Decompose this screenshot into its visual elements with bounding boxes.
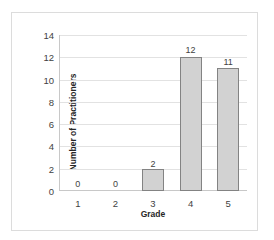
- bar-value-3: 2: [150, 159, 155, 169]
- ytick-label-14: 14: [43, 30, 54, 41]
- bar-5[interactable]: [217, 68, 239, 191]
- bar-3[interactable]: [142, 169, 164, 191]
- xtick-label-2: 2: [113, 198, 118, 209]
- ytick-label-12: 12: [43, 52, 54, 63]
- xtick-label-3: 3: [150, 198, 155, 209]
- xtick-label-5: 5: [226, 198, 231, 209]
- bar-value-4: 12: [186, 45, 196, 55]
- bar-group-5: 11 5: [209, 35, 247, 191]
- bar-value-5: 11: [224, 57, 233, 67]
- xtick-label-1: 1: [75, 198, 80, 209]
- bar-group-2: 0 2: [97, 35, 135, 191]
- bar-group-1: 0 1: [59, 35, 97, 191]
- ytick-label-0: 0: [49, 186, 54, 197]
- ytick-label-4: 4: [49, 141, 54, 152]
- chart-frame: Number of Practitioners 14 12 10 8 6 4 2…: [11, 12, 258, 231]
- bar-group-4: 12 4: [172, 35, 210, 191]
- ytick-label-2: 2: [49, 163, 54, 174]
- xtick-label-4: 4: [188, 198, 193, 209]
- ytick-label-6: 6: [49, 119, 54, 130]
- ytick-label-8: 8: [49, 96, 54, 107]
- bar-value-1: 0: [75, 179, 80, 189]
- ytick-label-10: 10: [43, 74, 54, 85]
- bar-value-2: 0: [113, 179, 118, 189]
- bar-group-3: 2 3: [134, 35, 172, 191]
- x-axis-title: Grade: [59, 209, 247, 219]
- plot-area: 14 12 10 8 6 4 2 0 0 1 0 2 2: [59, 35, 247, 191]
- bar-4[interactable]: [180, 57, 202, 191]
